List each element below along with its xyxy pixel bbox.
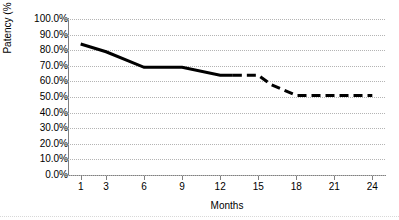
y-axis-tick-label: 40.0% (20, 108, 68, 118)
y-axis-tick-mark (64, 19, 68, 20)
gridline-horizontal (68, 144, 385, 145)
y-axis-tick-mark (64, 50, 68, 51)
x-axis-tick-mark (258, 176, 259, 180)
y-axis-tick-mark (64, 144, 68, 145)
x-axis-tick-mark (220, 176, 221, 180)
x-axis-tick-mark (106, 176, 107, 180)
gridline-horizontal (68, 35, 385, 36)
gridline-horizontal (68, 128, 385, 129)
y-axis-tick-mark (64, 128, 68, 129)
y-axis-tick-mark (64, 66, 68, 67)
x-axis-tick-mark (81, 176, 82, 180)
scan-artifact-line (0, 216, 399, 217)
x-axis-tick-mark (182, 176, 183, 180)
x-axis-tick-label: 3 (91, 182, 121, 192)
gridline-horizontal (68, 97, 385, 98)
y-axis-tick-mark (64, 113, 68, 114)
y-axis-tick-label: 60.0% (20, 76, 68, 86)
gridline-horizontal (68, 81, 385, 82)
y-axis-tick-label: 10.0% (20, 154, 68, 164)
y-axis-tick-mark (64, 97, 68, 98)
y-axis-tick-mark (64, 81, 68, 82)
x-axis-tick-label: 21 (319, 182, 349, 192)
x-axis-tick-label: 18 (281, 182, 311, 192)
y-axis-tick-label: 80.0% (20, 45, 68, 55)
y-axis-tick-label: 0.0% (20, 170, 68, 180)
y-axis-tick-mark (64, 35, 68, 36)
gridline-horizontal (68, 113, 385, 114)
x-axis-tick-mark (372, 176, 373, 180)
x-axis-tick-label: 12 (205, 182, 235, 192)
plot-area (68, 19, 385, 175)
y-axis-tick-label: 70.0% (20, 61, 68, 71)
x-axis-title: Months (68, 200, 386, 211)
y-axis-tick-label: 30.0% (20, 123, 68, 133)
x-axis-tick-label: 9 (167, 182, 197, 192)
x-axis-tick-mark (334, 176, 335, 180)
y-axis-tick-mark (64, 175, 68, 176)
gridline-horizontal (68, 19, 385, 20)
y-axis-tick-label: 100.0% (20, 14, 68, 24)
x-axis-tick-label: 6 (129, 182, 159, 192)
chart-figure: Patency (% 100.0%90.0%80.0%70.0%60.0%50.… (0, 0, 399, 220)
y-axis-tick-label: 90.0% (20, 30, 68, 40)
y-axis-tick-label: 20.0% (20, 139, 68, 149)
y-axis-tick-label: 50.0% (20, 92, 68, 102)
x-axis-tick-mark (296, 176, 297, 180)
y-axis-title: Patency (% (2, 0, 18, 78)
gridline-horizontal (68, 175, 385, 176)
y-axis-tick-labels: 100.0%90.0%80.0%70.0%60.0%50.0%40.0%30.0… (20, 0, 68, 220)
y-axis-tick-mark (64, 159, 68, 160)
gridline-horizontal (68, 66, 385, 67)
x-axis-tick-label: 24 (357, 182, 387, 192)
x-axis-tick-mark (144, 176, 145, 180)
gridline-horizontal (68, 159, 385, 160)
x-axis-tick-label: 15 (243, 182, 273, 192)
gridline-horizontal (68, 50, 385, 51)
